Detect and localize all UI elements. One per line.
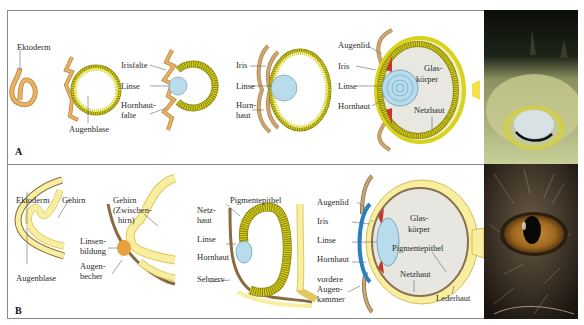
label-iris: Iris bbox=[317, 217, 328, 227]
label-lederhaut: Lederhaut bbox=[436, 294, 470, 304]
fish-eye-image bbox=[484, 10, 578, 164]
label-ektoderm: Ektoderm bbox=[16, 196, 50, 206]
stage-b2-optic-cup bbox=[108, 178, 175, 284]
cat-eye-image bbox=[484, 164, 578, 319]
label-augenblase: Augenblase bbox=[16, 274, 56, 284]
label-falte: falte bbox=[121, 111, 136, 121]
label-linse: Linse bbox=[197, 235, 216, 245]
label-netzhaut: Netzhaut bbox=[414, 106, 445, 116]
label-kammer: kammer bbox=[317, 295, 345, 305]
label-linse: Linse bbox=[236, 82, 255, 92]
label-augenlid: Augenlid bbox=[317, 198, 349, 208]
label-augenlid: Augenlid bbox=[338, 41, 370, 51]
stage-a2-optic-vesicle bbox=[66, 57, 118, 123]
label-koerper: körper bbox=[408, 225, 430, 235]
label-hirn: hirn) bbox=[118, 216, 135, 226]
label-iris: Iris bbox=[338, 62, 349, 72]
stage-a5-adult-eye bbox=[356, 30, 480, 150]
fish-eye-photo bbox=[484, 10, 578, 164]
stage-a3-lens-formation bbox=[150, 50, 215, 130]
label-koerper: körper bbox=[416, 75, 438, 85]
cat-eye-photo bbox=[484, 164, 578, 319]
label-irisfalte: Irisfalte bbox=[121, 61, 147, 71]
label-haut: haut bbox=[197, 216, 212, 226]
label-pigmentepithel: Pigmentepithel bbox=[230, 196, 281, 206]
label-linse: Linse bbox=[317, 236, 336, 246]
label-hornhaut: Hornhaut bbox=[197, 253, 229, 263]
label-netzhaut: Netzhaut bbox=[400, 270, 431, 280]
stage-a1-ectoderm-pit bbox=[12, 50, 36, 105]
label-glas: Glas- bbox=[410, 214, 428, 224]
label-hornhaut: Hornhaut bbox=[317, 255, 349, 265]
label-becher: becher bbox=[80, 272, 103, 282]
panel-a: Ektoderm Augenblase Irisfalte Linse Horn… bbox=[0, 0, 584, 164]
label-haut: haut bbox=[236, 111, 251, 121]
label-augenblase: Augenblase bbox=[69, 125, 109, 135]
label-hornhaut: Hornhaut bbox=[338, 102, 370, 112]
label-ektoderm: Ektoderm bbox=[17, 43, 51, 53]
label-glas: Glas- bbox=[424, 64, 442, 74]
stage-a4-eye-developing bbox=[250, 46, 328, 132]
label-pigmentepithel-2: Pigmentepithel bbox=[392, 244, 443, 254]
stage-b1-optic-vesicle bbox=[18, 180, 70, 264]
panel-letter-a: A bbox=[15, 146, 22, 157]
label-iris: Iris bbox=[236, 61, 247, 71]
label-linse: Linse bbox=[121, 82, 140, 92]
panel-letter-b: B bbox=[15, 305, 22, 316]
panel-b: Ektoderm Gehirn Augenblase Gehirn (Zwisc… bbox=[0, 164, 584, 325]
label-gehirn: Gehirn bbox=[62, 196, 86, 206]
label-bildung: bildung bbox=[80, 247, 106, 257]
label-linse: Linse bbox=[338, 82, 357, 92]
label-sehnerv: Sehnerv bbox=[197, 275, 225, 285]
